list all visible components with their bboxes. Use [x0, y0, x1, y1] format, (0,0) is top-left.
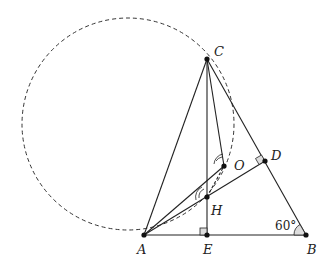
angle-O-arc2: [214, 154, 223, 164]
angle-H-arc: [199, 189, 204, 198]
label-E: E: [202, 242, 213, 257]
label-C: C: [214, 44, 224, 59]
label-A: A: [136, 242, 146, 257]
segment-CA: [144, 59, 207, 235]
label-H: H: [210, 203, 223, 218]
point-B: [303, 232, 308, 237]
label-D: D: [270, 148, 282, 163]
point-A: [141, 232, 146, 237]
point-E: [204, 232, 209, 237]
point-O: [221, 163, 226, 168]
segment-HO: [207, 166, 224, 197]
label-O: O: [234, 158, 245, 173]
label-B: B: [306, 242, 317, 257]
segment-AD: [144, 161, 265, 235]
circumcircle: [22, 18, 234, 230]
point-D: [262, 158, 267, 163]
angle-H-arc2: [196, 187, 202, 200]
point-H: [204, 194, 209, 199]
point-C: [204, 56, 209, 61]
angle-B-label: 60°: [275, 219, 296, 233]
geometry-diagram: A B C D E H O 60°: [0, 0, 334, 273]
